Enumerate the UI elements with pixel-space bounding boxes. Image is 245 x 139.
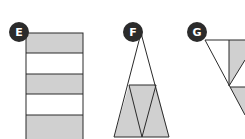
- badge-f: F: [123, 22, 143, 42]
- badge-e: E: [9, 22, 29, 42]
- badge-g: G: [187, 22, 207, 42]
- badge-e-label: E: [15, 26, 23, 39]
- badge-g-label: G: [192, 26, 201, 39]
- figure-e: E: [9, 22, 83, 139]
- badge-f-label: F: [129, 26, 137, 39]
- diagram-canvas: E F G: [0, 0, 245, 139]
- figure-f: F: [114, 22, 169, 137]
- figure-g: G: [187, 22, 245, 115]
